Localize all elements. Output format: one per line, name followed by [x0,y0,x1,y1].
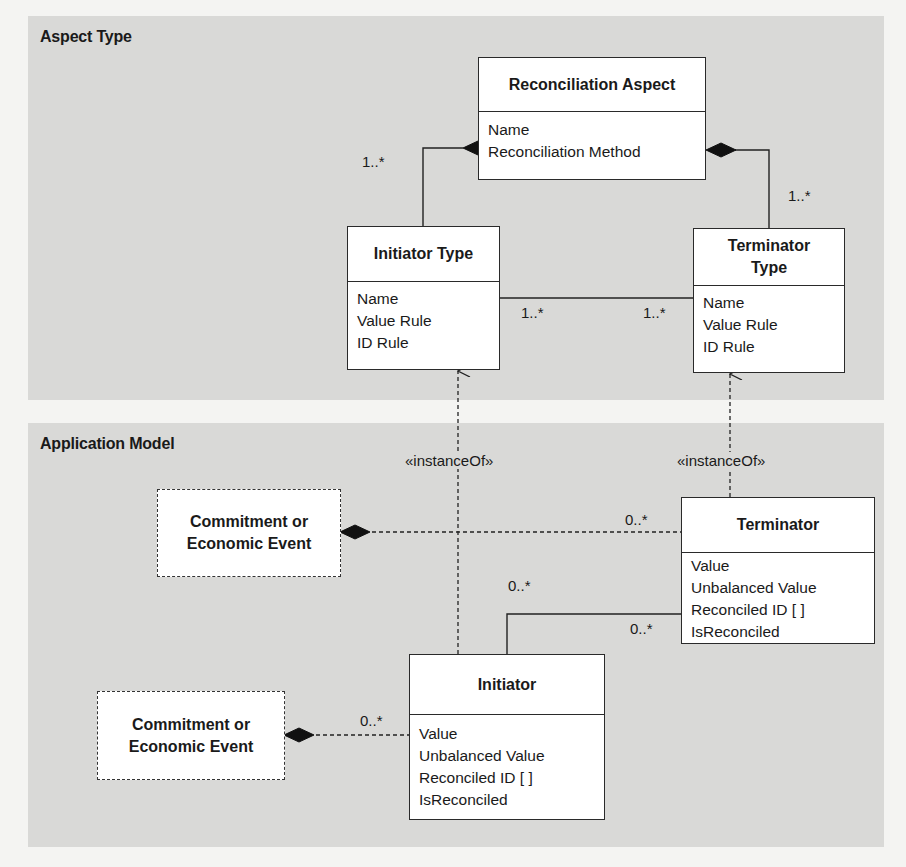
attribute: Value [691,555,865,577]
attribute: Name [357,288,490,310]
multiplicity-type-association-right: 1..* [643,304,666,321]
initiator-class: Initiator Value Unbalanced Value Reconci… [409,654,605,820]
multiplicity-event-terminator: 0..* [625,511,648,528]
commitment-or-economic-event-bottom: Commitment or Economic Event [97,691,285,780]
attribute: Unbalanced Value [691,577,865,599]
attribute: Value Rule [703,314,835,336]
multiplicity-aspect-initiator-type: 1..* [362,153,385,170]
reconciliation-aspect-name: Reconciliation Aspect [479,58,705,112]
terminator-type-class: Terminator Type Name Value Rule ID Rule [693,228,845,373]
initiator-terminator-link [507,614,681,654]
multiplicity-type-association-left: 1..* [521,304,544,321]
terminator-type-name-line1: Terminator [728,235,810,257]
attribute: Unbalanced Value [419,745,595,767]
attribute: IsReconciled [691,621,865,643]
attribute: IsReconciled [419,789,595,811]
multiplicity-initiator-end: 0..* [508,577,531,594]
attribute: Value [419,723,595,745]
terminator-type-name: Terminator Type [694,229,844,286]
attribute: Reconciliation Method [488,141,696,163]
initiator-type-name: Initiator Type [348,227,499,282]
attribute: Reconciled ID [ ] [691,599,865,621]
event-line1: Commitment or [190,511,308,533]
attribute: Name [703,292,835,314]
terminator-type-name-line2: Type [751,257,787,279]
commitment-or-economic-event-top: Commitment or Economic Event [157,489,341,577]
attribute: ID Rule [703,336,835,358]
terminator-instance-of-label: «instanceOf» [675,452,767,469]
aspect-terminator-type-link [735,150,769,228]
composition-diamond-event-bottom [284,728,314,742]
reconciliation-aspect-class: Reconciliation Aspect Name Reconciliatio… [478,57,706,180]
initiator-type-class: Initiator Type Name Value Rule ID Rule [347,226,500,370]
initiator-name: Initiator [410,655,604,715]
attribute: ID Rule [357,332,490,354]
terminator-name: Terminator [682,498,874,553]
composition-diamond-event-top [340,525,370,539]
attribute: Name [488,119,696,141]
composition-diamond-aspect-right [706,143,736,157]
event-line1: Commitment or [132,714,250,736]
multiplicity-event-initiator: 0..* [360,712,383,729]
event-line2: Economic Event [129,736,253,758]
terminator-class: Terminator Value Unbalanced Value Reconc… [681,497,875,644]
multiplicity-terminator-end: 0..* [630,620,653,637]
multiplicity-aspect-terminator-type: 1..* [788,187,811,204]
attribute: Reconciled ID [ ] [419,767,595,789]
attribute: Value Rule [357,310,490,332]
aspect-initiator-type-link [423,148,463,226]
initiator-instance-of-label: «instanceOf» [403,452,495,469]
event-line2: Economic Event [187,533,311,555]
